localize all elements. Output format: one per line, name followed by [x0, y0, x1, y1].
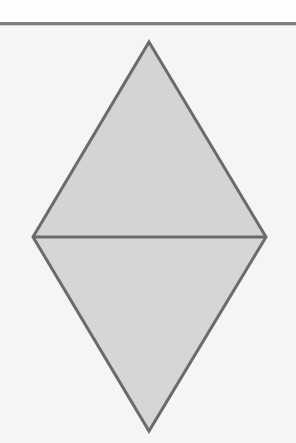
figure-canvas — [0, 0, 296, 443]
rhombus-figure — [0, 0, 296, 443]
lower-triangle — [33, 237, 266, 431]
upper-triangle — [33, 42, 266, 237]
